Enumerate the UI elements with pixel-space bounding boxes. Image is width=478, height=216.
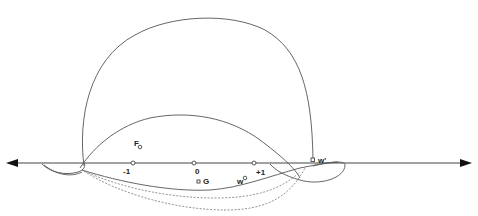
label-w-prime: w' [317, 156, 326, 165]
point-plus-one [252, 161, 256, 165]
point-zero [192, 161, 196, 165]
label-G: G [203, 177, 209, 186]
label-w: w [236, 177, 244, 186]
contour-diagram: -1 0 +1 F G w w' [0, 0, 478, 216]
right-arrow-icon [460, 159, 472, 167]
label-F: F [134, 139, 139, 148]
label-zero: 0 [195, 167, 200, 176]
point-w-prime [311, 158, 315, 162]
right-loop [270, 162, 345, 182]
inner-arc [80, 115, 300, 178]
lower-dashed-arc-1 [82, 170, 300, 198]
outer-arc [82, 18, 313, 166]
real-axis [6, 159, 472, 167]
label-minus-one: -1 [123, 167, 131, 176]
label-plus-one: +1 [256, 168, 266, 177]
point-w [243, 176, 247, 180]
lower-solid-arc [82, 162, 338, 190]
left-arrow-icon [6, 159, 18, 167]
point-minus-one [131, 161, 135, 165]
point-G [197, 180, 200, 183]
